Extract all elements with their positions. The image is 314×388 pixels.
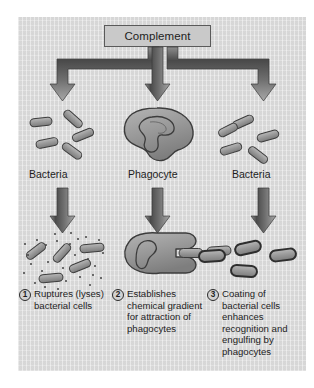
complement-title-box: Complement	[104, 25, 211, 47]
caption-text-2: Establishes chemical gradient for attrac…	[127, 288, 204, 334]
caption-1: 1 Ruptures (lyses) bacterial cells	[19, 288, 111, 311]
caption-number-1: 1	[19, 289, 31, 301]
column-label-phagocyte: Phagocyte	[128, 168, 178, 180]
caption-text-3: Coating of bacterial cells enhances reco…	[222, 288, 302, 358]
column-label-bacteria-left: Bacteria	[29, 168, 68, 180]
caption-number-3: 3	[207, 289, 219, 301]
column-label-bacteria-right: Bacteria	[232, 168, 271, 180]
caption-text-1: Ruptures (lyses) bacterial cells	[34, 288, 111, 311]
caption-2: 2 Establishes chemical gradient for attr…	[112, 288, 204, 334]
caption-3: 3 Coating of bacterial cells enhances re…	[207, 288, 302, 358]
complement-title-label: Complement	[124, 30, 190, 42]
figure-canvas: Complement	[0, 0, 314, 388]
caption-number-2: 2	[112, 289, 124, 301]
